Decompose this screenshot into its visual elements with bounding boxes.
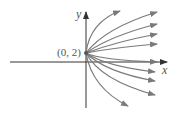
solution-curve (86, 53, 128, 106)
initial-point (84, 51, 88, 55)
solution-curve (86, 44, 157, 53)
solution-curves (86, 11, 157, 106)
slope-field-diagram (0, 0, 178, 120)
solution-curve (86, 53, 157, 62)
diagram: y x (0, 2) (0, 0, 178, 120)
point-label: (0, 2) (57, 46, 81, 58)
y-axis-label: y (76, 7, 81, 22)
solution-curve (86, 34, 157, 53)
x-axis-label: x (162, 63, 167, 78)
